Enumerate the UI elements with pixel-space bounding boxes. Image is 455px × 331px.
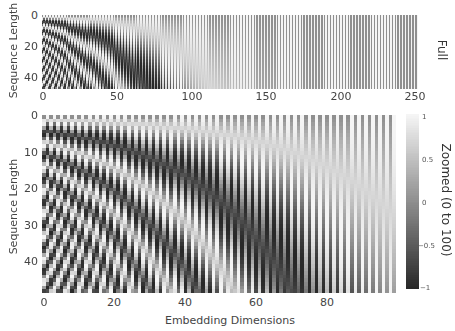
colorbar-tick: 1	[422, 114, 426, 121]
full-xtick: 100	[177, 91, 207, 102]
colorbar-tick: 0	[422, 200, 426, 207]
zoomed-x-axis-label: Embedding Dimensions	[160, 314, 300, 327]
full-heatmap	[42, 15, 418, 89]
zoomed-ytick: 40	[14, 256, 38, 267]
colorbar-tick: −1	[420, 285, 430, 292]
zoomed-heatmap	[42, 115, 396, 293]
zoomed-facet-label: Zoomed (0 to 100)	[439, 135, 453, 265]
colorbar-tick: 0.5	[422, 157, 433, 164]
zoomed-ytick: 0	[14, 110, 38, 121]
full-xtick: 50	[102, 91, 132, 102]
full-xtick: 250	[400, 91, 430, 102]
full-xtick: 0	[28, 91, 58, 102]
full-xtick: 150	[251, 91, 281, 102]
zoomed-xtick: 20	[99, 297, 129, 308]
full-xtick: 200	[326, 91, 356, 102]
zoomed-xtick: 60	[241, 297, 271, 308]
zoomed-xtick: 0	[29, 297, 59, 308]
full-facet-label: Full	[435, 35, 449, 65]
zoomed-y-axis-label: Sequence Length	[7, 157, 20, 257]
colorbar-tick: −0.5	[418, 243, 435, 250]
colorbar	[406, 114, 419, 289]
zoomed-xtick: 40	[170, 297, 200, 308]
zoomed-xtick: 80	[312, 297, 342, 308]
full-y-axis-label: Sequence Length	[7, 1, 20, 101]
